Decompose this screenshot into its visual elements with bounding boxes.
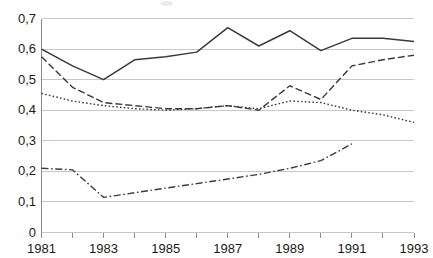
x-tick-label: 1989 [267, 242, 313, 255]
x-tick-label: 1985 [143, 242, 189, 255]
x-tick-label: 1981 [19, 242, 65, 255]
x-tick-label: 1993 [391, 242, 433, 255]
x-tick-label: 1991 [329, 242, 375, 255]
x-tick-label: 1983 [81, 242, 127, 255]
x-tick-label: 1987 [205, 242, 251, 255]
